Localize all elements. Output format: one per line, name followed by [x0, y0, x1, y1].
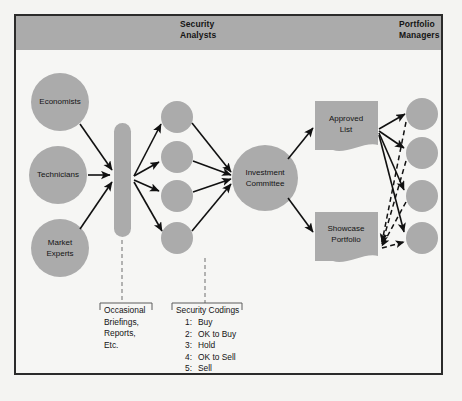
- edge-analyst-2-to-committee: [193, 161, 231, 175]
- legend-code-number: 1:: [185, 317, 198, 329]
- legend-code-item: 1: Buy: [185, 317, 236, 329]
- node-market-experts-label-line2: Experts: [46, 249, 73, 258]
- node-research-bar[interactable]: [114, 123, 131, 237]
- node-analyst-4[interactable]: [161, 222, 193, 254]
- node-technicians-label: Technicians: [37, 170, 79, 179]
- edge-portfolio-2-to-showcase: [382, 161, 406, 244]
- node-technicians[interactable]: Technicians: [29, 146, 87, 204]
- node-market-experts-label-line1: Market: [48, 238, 73, 247]
- edge-approved-to-portfolio-1: [379, 114, 405, 129]
- node-analyst-1[interactable]: [161, 101, 193, 133]
- node-economists[interactable]: Economists: [31, 73, 89, 131]
- node-economists-label: Economists: [39, 97, 80, 106]
- node-investment-committee-label-line1: Investment: [245, 168, 285, 177]
- legend-code-number: 5:: [185, 363, 198, 375]
- legend-occasional-text: Occasional Briefings, Reports, Etc.: [104, 305, 145, 351]
- diagram-page: Security Analysts Portfolio Managers Eco…: [0, 0, 462, 401]
- edge-committee-to-approved-list: [288, 128, 313, 159]
- legend-code-label: Sell: [198, 363, 212, 375]
- node-portfolio-2[interactable]: [406, 137, 438, 169]
- node-approved-list-label-line1: Approved: [329, 114, 363, 123]
- edge-analyst-1-to-committee: [192, 123, 231, 172]
- legend-code-number: 3:: [185, 340, 198, 352]
- legend-code-label: Buy: [198, 317, 212, 329]
- legend-code-item: 5: Sell: [185, 363, 236, 375]
- legend-code-number: 4:: [185, 352, 198, 364]
- legend-code-label: OK to Buy: [198, 329, 236, 341]
- node-approved-list-label-line2: List: [340, 125, 353, 134]
- node-approved-list[interactable]: Approved List: [315, 101, 378, 151]
- node-showcase-portfolio-label-line1: Showcase: [328, 224, 365, 233]
- legend-code-number: 2:: [185, 329, 198, 341]
- edge-market-experts-to-bar: [80, 182, 112, 229]
- legend-code-item: 2: OK to Buy: [185, 329, 236, 341]
- node-analyst-2[interactable]: [161, 141, 193, 173]
- edge-approved-to-portfolio-2: [379, 131, 404, 148]
- edge-economists-to-bar: [80, 124, 112, 170]
- edge-committee-to-showcase-portfolio: [288, 198, 313, 232]
- legend-security-codings-list: 1: Buy 2: OK to Buy 3: Hold 4: OK to Sel…: [185, 317, 236, 375]
- edge-showcase-to-portfolio-4: [382, 242, 404, 248]
- node-analyst-3[interactable]: [161, 180, 193, 212]
- legend-code-item: 4: OK to Sell: [185, 352, 236, 364]
- node-showcase-portfolio[interactable]: Showcase Portfolio: [315, 212, 378, 262]
- edge-bar-to-analyst-4: [134, 182, 162, 231]
- legend-code-label: OK to Sell: [198, 352, 236, 364]
- legend-code-label: Hold: [198, 340, 215, 352]
- node-portfolio-1[interactable]: [406, 98, 438, 130]
- node-showcase-portfolio-label-line2: Portfolio: [331, 235, 361, 244]
- node-investment-committee-label-line2: Committee: [246, 179, 285, 188]
- node-portfolio-3[interactable]: [406, 180, 438, 212]
- node-portfolio-4[interactable]: [406, 222, 438, 254]
- legend-security-codings-title: Security Codings: [176, 305, 239, 317]
- node-investment-committee[interactable]: Investment Committee: [232, 145, 298, 211]
- legend-code-item: 3: Hold: [185, 340, 236, 352]
